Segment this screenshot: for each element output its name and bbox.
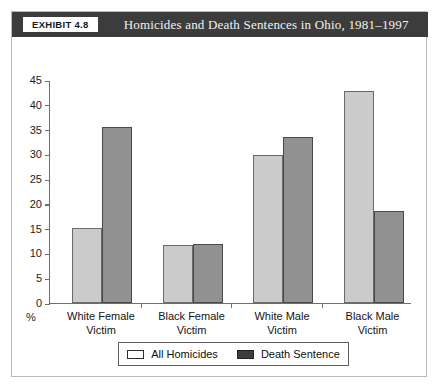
bar-death-sentence <box>193 244 223 303</box>
x-axis-tick-mark <box>141 303 142 308</box>
y-axis-tick-mark <box>45 180 50 181</box>
bar-death-sentence <box>283 137 313 303</box>
y-axis-tick-mark <box>45 155 50 156</box>
category-label: Black MaleVictim <box>313 310 433 337</box>
y-axis-tick-label: 15 <box>30 223 42 235</box>
category-label-line1: Black Male <box>313 310 433 324</box>
exhibit-title: Homicides and Death Sentences in Ohio, 1… <box>124 17 409 33</box>
legend-entry: All Homicides <box>127 348 218 360</box>
category-label-line2: Victim <box>313 324 433 338</box>
x-axis-tick-mark <box>322 303 323 308</box>
bar-all-homicides <box>163 245 193 303</box>
y-axis-tick-label: 40 <box>30 99 42 111</box>
y-axis-tick-mark <box>45 304 50 305</box>
y-axis-tick-label: 0 <box>36 297 42 309</box>
y-axis-tick-mark <box>45 229 50 230</box>
exhibit-header: EXHIBIT 4.8 Homicides and Death Sentence… <box>12 12 428 37</box>
y-axis-tick-label: 20 <box>30 198 42 210</box>
legend-swatch-light <box>127 350 144 359</box>
y-axis-tick-mark <box>45 279 50 280</box>
plot-area: 051015202530354045 <box>49 81 411 304</box>
bar-death-sentence <box>374 211 404 303</box>
y-axis-tick-mark <box>45 254 50 255</box>
y-axis-tick-mark <box>45 204 50 205</box>
legend-label: Death Sentence <box>261 348 340 360</box>
legend-label: All Homicides <box>151 348 218 360</box>
legend-entry: Death Sentence <box>237 348 340 360</box>
y-axis-tick-label: 5 <box>36 272 42 284</box>
exhibit-frame: EXHIBIT 4.8 Homicides and Death Sentence… <box>11 11 427 377</box>
x-axis-tick-mark <box>231 303 232 308</box>
y-axis-tick-label: 30 <box>30 148 42 160</box>
y-axis-tick-mark <box>45 130 50 131</box>
exhibit-tag: EXHIBIT 4.8 <box>23 17 98 33</box>
y-axis-tick-label: 45 <box>30 74 42 86</box>
legend-swatch-dark <box>237 350 254 359</box>
chart-figure: 051015202530354045 % White FemaleVictimB… <box>12 37 428 377</box>
bar-all-homicides <box>344 91 374 303</box>
bar-all-homicides <box>72 228 102 303</box>
y-axis-unit-label: % <box>26 311 36 323</box>
y-axis-tick-label: 25 <box>30 173 42 185</box>
bar-all-homicides <box>253 155 283 303</box>
chart-legend: All HomicidesDeath Sentence <box>118 342 349 366</box>
bar-death-sentence <box>102 127 132 303</box>
y-axis-tick-label: 10 <box>30 247 42 259</box>
y-axis-tick-mark <box>45 105 50 106</box>
y-axis-tick-mark <box>45 81 50 82</box>
y-axis-tick-label: 35 <box>30 124 42 136</box>
